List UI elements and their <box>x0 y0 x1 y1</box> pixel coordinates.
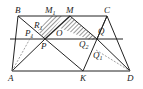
label-P1: P1 <box>24 28 34 39</box>
label-Q2: Q2 <box>79 39 89 50</box>
label-A: A <box>7 73 14 83</box>
geometry-diagram: B M1 M C R1 P1 O Q P Q2 Q1 A K D <box>0 0 143 89</box>
label-M: M <box>65 5 74 15</box>
label-R1: R1 <box>33 20 43 31</box>
label-K: K <box>79 73 87 83</box>
label-M1: M1 <box>44 5 56 16</box>
label-C: C <box>104 5 111 15</box>
label-D: D <box>126 73 134 83</box>
label-Q: Q <box>98 26 105 36</box>
label-Q1: Q1 <box>93 50 103 61</box>
label-P: P <box>40 41 47 51</box>
segment-CD <box>107 16 130 71</box>
label-O: O <box>56 28 63 38</box>
label-B: B <box>15 5 21 15</box>
segment-AB <box>12 16 18 71</box>
